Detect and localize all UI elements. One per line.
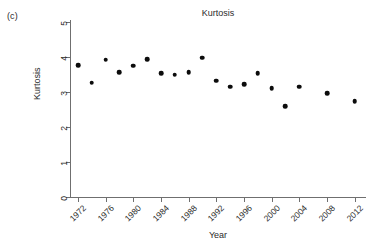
x-tick-mark xyxy=(355,198,356,202)
y-tick-label: 5 xyxy=(59,21,69,41)
data-point xyxy=(145,57,150,62)
y-tick-label: 3 xyxy=(59,91,69,111)
data-point xyxy=(103,58,108,63)
x-axis-title: Year xyxy=(71,230,365,240)
x-tick-mark xyxy=(327,198,328,202)
y-axis-title: Kurtosis xyxy=(32,86,42,100)
data-point xyxy=(89,80,94,85)
data-point xyxy=(269,86,274,91)
data-point xyxy=(214,79,219,84)
y-tick-label: 1 xyxy=(59,161,69,181)
data-point xyxy=(242,82,247,87)
data-point xyxy=(325,91,330,96)
y-tick-label: 0 xyxy=(59,196,69,216)
data-point xyxy=(76,63,81,68)
y-tick-label: 4 xyxy=(59,56,69,76)
data-point xyxy=(283,104,288,109)
data-point xyxy=(117,70,122,75)
x-tick-mark xyxy=(78,198,79,202)
data-point xyxy=(352,99,357,104)
x-tick-mark xyxy=(244,198,245,202)
data-point xyxy=(255,71,260,76)
data-point xyxy=(297,84,302,89)
x-axis-line xyxy=(70,197,366,198)
data-point xyxy=(186,70,191,75)
x-tick-mark xyxy=(272,198,273,202)
data-point xyxy=(172,72,177,77)
panel-label: (c) xyxy=(7,11,18,21)
x-tick-mark xyxy=(299,198,300,202)
x-tick-mark xyxy=(133,198,134,202)
data-point xyxy=(200,55,205,60)
x-tick-mark xyxy=(161,198,162,202)
data-point xyxy=(228,84,233,89)
x-tick-mark xyxy=(106,198,107,202)
x-tick-mark xyxy=(189,198,190,202)
chart-title: Kurtosis xyxy=(71,8,365,18)
y-tick-label: 2 xyxy=(59,126,69,146)
x-tick-mark xyxy=(216,198,217,202)
y-axis-line xyxy=(70,20,71,198)
data-point xyxy=(131,63,136,68)
data-point xyxy=(159,71,164,76)
figure-panel-c: (c) Kurtosis 012345 19721976198019841988… xyxy=(0,0,376,248)
